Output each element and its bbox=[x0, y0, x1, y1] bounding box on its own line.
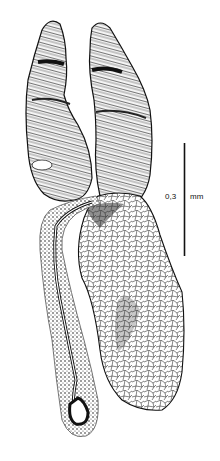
scale-bar-unit: mm bbox=[190, 193, 203, 201]
scale-bar-value: 0,3 bbox=[165, 193, 176, 201]
left-lobe bbox=[26, 21, 92, 201]
anatomical-illustration bbox=[0, 0, 220, 461]
